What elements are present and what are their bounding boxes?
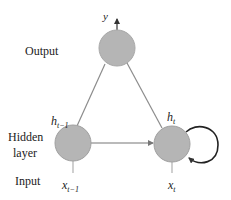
edge-hcurr-to-output — [127, 63, 162, 128]
hidden-node-curr — [154, 126, 190, 162]
output-node — [99, 30, 135, 66]
input-prev-label: xt−1 — [61, 178, 79, 194]
hidden-curr-label: ht — [167, 110, 176, 126]
rnn-diagram: Output Hidden layer Input y ht−1 ht xt−1… — [0, 0, 231, 200]
output-y-label: y — [102, 10, 108, 22]
input-layer-label: Input — [15, 174, 41, 188]
hidden-prev-label: ht−1 — [51, 114, 69, 130]
hidden-layer-label-line1: Hidden — [8, 130, 43, 144]
self-loop-arrow — [186, 127, 218, 163]
diagram-canvas: Output Hidden layer Input y ht−1 ht xt−1… — [0, 0, 231, 200]
input-curr-label: xt — [167, 178, 176, 194]
output-layer-label: Output — [25, 44, 59, 58]
hidden-node-prev — [55, 125, 91, 161]
edge-hprev-to-output — [77, 64, 105, 126]
hidden-layer-label-line2: layer — [13, 146, 37, 160]
